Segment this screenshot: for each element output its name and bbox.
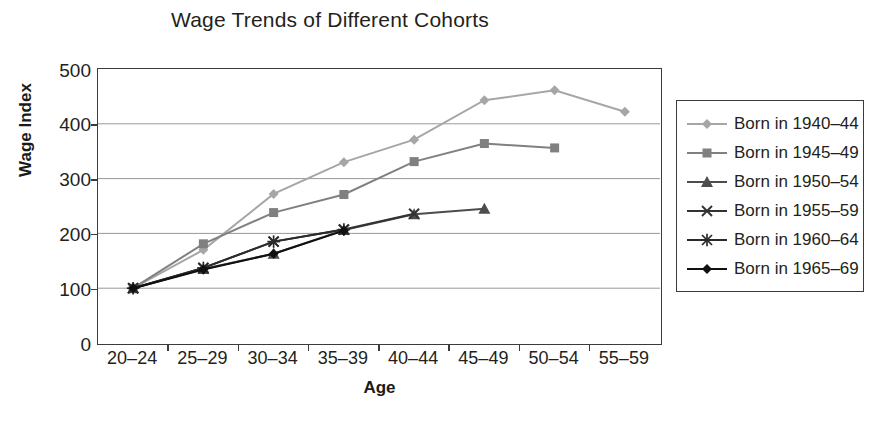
legend-label: Born in 1950–54	[734, 173, 859, 190]
y-axis-tick-labels: 0100200300400500	[41, 68, 91, 345]
x-tick-mark	[378, 345, 380, 351]
data-point-diamond	[550, 85, 560, 95]
legend-item[interactable]: Born in 1945–49	[685, 138, 857, 167]
legend-marker-cross-icon	[685, 201, 729, 221]
legend-item[interactable]: Born in 1940–44	[685, 109, 857, 138]
data-point-square	[339, 190, 348, 199]
x-tick-label: 55–59	[588, 349, 660, 369]
legend-item[interactable]: Born in 1965–69	[685, 254, 857, 283]
plot-svg	[98, 69, 660, 343]
data-point-diamond	[479, 95, 489, 105]
y-tick-label: 200	[45, 225, 91, 244]
data-point-diamond	[620, 107, 630, 117]
legend-label: Born in 1965–69	[734, 260, 859, 277]
legend-label: Born in 1940–44	[734, 115, 859, 132]
legend-label: Born in 1955–59	[734, 202, 859, 219]
data-point-filled-diamond	[702, 264, 712, 274]
x-tick-label: 40–44	[377, 349, 449, 369]
legend-item[interactable]: Born in 1960–64	[685, 225, 857, 254]
data-point-asterisk	[267, 235, 280, 248]
data-point-square	[410, 157, 419, 166]
legend-marker-square-icon	[685, 143, 729, 163]
legend-label: Born in 1960–64	[734, 231, 859, 248]
x-axis-tick-labels: 20–2425–2930–3435–3940–4445–4950–5455–59	[97, 349, 662, 373]
x-tick-mark	[448, 345, 450, 351]
x-tick-mark	[238, 345, 240, 351]
legend-marker-asterisk-icon	[685, 230, 729, 250]
legend-marker-diamond-icon	[685, 114, 729, 134]
x-tick-mark	[167, 345, 169, 351]
x-tick-mark	[519, 345, 521, 351]
data-point-square	[480, 139, 489, 148]
y-tick-mark	[91, 234, 97, 236]
y-axis-title: Wage Index	[16, 60, 36, 200]
legend-marker-filled-diamond-icon	[685, 259, 729, 279]
series-line-5	[133, 231, 344, 289]
x-tick-mark	[308, 345, 310, 351]
y-tick-label: 0	[45, 335, 91, 354]
data-point-asterisk	[701, 233, 714, 246]
chart-title: Wage Trends of Different Cohorts	[0, 8, 660, 32]
y-tick-mark	[91, 289, 97, 291]
plot-area	[97, 68, 662, 345]
x-tick-label: 45–49	[447, 349, 519, 369]
legend-marker-triangle-icon	[685, 172, 729, 192]
y-tick-label: 400	[45, 115, 91, 134]
legend-item[interactable]: Born in 1955–59	[685, 196, 857, 225]
legend: Born in 1940–44Born in 1945–49Born in 19…	[676, 100, 864, 292]
data-point-diamond	[409, 135, 419, 145]
x-tick-label: 25–29	[166, 349, 238, 369]
data-point-square	[703, 148, 712, 157]
data-point-diamond	[339, 157, 349, 167]
y-tick-label: 300	[45, 170, 91, 189]
x-tick-label: 20–24	[96, 349, 168, 369]
data-point-square	[269, 208, 278, 217]
data-point-diamond	[702, 119, 712, 129]
y-tick-label: 100	[45, 280, 91, 299]
data-point-square	[199, 239, 208, 248]
x-axis-title: Age	[97, 378, 662, 398]
chart-figure: Wage Trends of Different Cohorts Wage In…	[0, 0, 872, 428]
legend-label: Born in 1945–49	[734, 144, 859, 161]
y-tick-mark	[91, 124, 97, 126]
x-tick-label: 30–34	[237, 349, 309, 369]
x-tick-mark	[589, 345, 591, 351]
y-tick-label: 500	[45, 61, 91, 80]
data-point-square	[550, 143, 559, 152]
x-tick-label: 35–39	[307, 349, 379, 369]
legend-item[interactable]: Born in 1950–54	[685, 167, 857, 196]
y-tick-mark	[91, 179, 97, 181]
series-line-2	[133, 209, 484, 288]
x-tick-label: 50–54	[518, 349, 590, 369]
series-line-0	[133, 90, 625, 288]
